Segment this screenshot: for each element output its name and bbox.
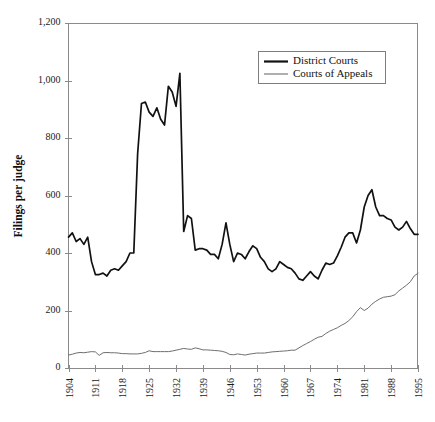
x-tick-label: 1967 — [305, 378, 316, 398]
x-tick-label: 1995 — [413, 378, 424, 398]
line-courts-of-appeals — [69, 273, 419, 355]
y-tick-label: 400 — [46, 246, 61, 257]
y-axis-ticks: 02004006008001,0001,200 — [38, 16, 72, 372]
legend-label-district-courts: District Courts — [293, 54, 358, 66]
x-tick-label: 1904 — [64, 378, 75, 398]
legend-label-courts-of-appeals: Courts of Appeals — [293, 67, 372, 79]
x-tick-label: 1932 — [171, 378, 182, 398]
legend: District Courts Courts of Appeals — [259, 52, 386, 84]
chart-figure: 02004006008001,0001,200 1904191119181925… — [0, 0, 435, 422]
y-tick-label: 600 — [46, 189, 61, 200]
x-tick-label: 1918 — [117, 378, 128, 398]
x-tick-label: 1939 — [198, 378, 209, 398]
x-tick-label: 1946 — [225, 378, 236, 398]
y-tick-label: 1,000 — [38, 74, 61, 85]
y-tick-label: 0 — [56, 361, 61, 372]
x-tick-label: 1974 — [332, 378, 343, 398]
data-series — [69, 73, 419, 355]
y-axis-title: Filings per judge — [12, 155, 25, 238]
y-tick-label: 800 — [46, 131, 61, 142]
y-tick-label: 1,200 — [38, 16, 61, 27]
y-tick-label: 200 — [46, 304, 61, 315]
x-tick-label: 1911 — [90, 378, 101, 398]
x-tick-label: 1981 — [359, 378, 370, 398]
x-tick-label: 1953 — [252, 378, 263, 398]
x-tick-label: 1960 — [279, 378, 290, 398]
x-tick-label: 1988 — [386, 378, 397, 398]
line-district-courts — [69, 73, 419, 280]
x-axis-ticks: 1904191119181925193219391946195319601967… — [64, 365, 424, 399]
filings-per-judge-line-chart: 02004006008001,0001,200 1904191119181925… — [0, 0, 435, 422]
x-tick-label: 1925 — [144, 378, 155, 398]
